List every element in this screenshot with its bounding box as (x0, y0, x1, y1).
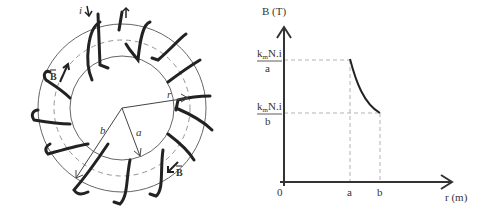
radius-a-label: a (136, 126, 142, 138)
winding-turn (176, 108, 212, 130)
radius-b-label: b (100, 124, 106, 136)
svg-text:kmN.i: kmN.i (257, 100, 282, 114)
field-label-right: B (176, 167, 183, 178)
field-label-left: B (50, 71, 57, 82)
winding-turn (176, 96, 210, 110)
figure-canvas: i B B r a b B (T) r (m) 0 a b (0, 0, 491, 215)
b-field-curve (350, 59, 380, 113)
winding-turn (150, 150, 163, 196)
winding-turn (44, 71, 70, 98)
winding-turn (46, 144, 88, 154)
winding-turn (119, 12, 122, 30)
winding-turn (114, 160, 130, 204)
x-tick-a: a (347, 186, 352, 198)
winding-turn (168, 60, 200, 82)
y-tick-a-rest: N.i (268, 47, 282, 59)
svg-text:kmN.i: kmN.i (257, 47, 282, 61)
toroid-diagram: i B B r a b (32, 4, 212, 204)
figure: i B B r a b B (T) r (m) 0 a b (0, 0, 491, 215)
b-vs-r-graph: B (T) r (m) 0 a b kmN.i a kmN.i b (257, 5, 468, 204)
x-axis-label: r (m) (445, 191, 468, 204)
y-tick-b-rest: N.i (268, 100, 282, 112)
guide-lines (284, 60, 380, 182)
y-axis-label: B (T) (262, 5, 286, 18)
y-tick-b-den: b (265, 115, 271, 127)
y-tick-a: kmN.i a (257, 47, 282, 74)
radius-r-label: r (167, 88, 172, 100)
x-tick-b: b (377, 186, 383, 198)
winding-turn (168, 134, 194, 160)
y-tick-a-den: a (265, 62, 270, 74)
current-label: i (79, 4, 82, 16)
y-tick-b: kmN.i b (257, 100, 282, 127)
origin-label: 0 (277, 186, 283, 198)
